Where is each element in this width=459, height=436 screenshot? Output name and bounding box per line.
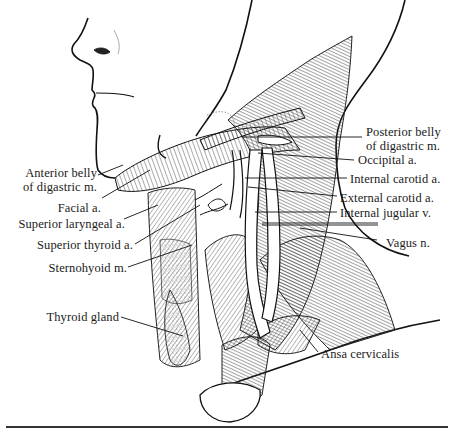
label-line: Anterior belly	[23, 166, 97, 180]
face-profile	[72, 18, 134, 178]
label-facial-a: Facial a.	[58, 201, 101, 215]
label-superior-thyroid-a: Superior thyroid a.	[37, 238, 133, 252]
arterial-branches	[195, 184, 228, 215]
label-occipital-a: Occipital a.	[358, 153, 417, 167]
label-posterior-belly-digastric: Posterior belly of digastric m.	[366, 125, 441, 153]
neck-anatomy-figure: Posterior belly of digastric m. Occipita…	[0, 0, 459, 436]
bottom-rule-divider	[6, 426, 448, 428]
label-vagus-n: Vagus n.	[386, 236, 430, 250]
label-superior-laryngeal-a: Superior laryngeal a.	[18, 217, 125, 231]
clavicle-region	[200, 383, 260, 422]
label-internal-jugular-v: Internal jugular v.	[340, 206, 431, 220]
label-internal-carotid-a: Internal carotid a.	[350, 172, 440, 186]
label-ansa-cervicalis: Ansa cervicalis	[321, 347, 399, 361]
label-sternohyoid-m: Sternohyoid m.	[49, 261, 127, 275]
label-thyroid-gland: Thyroid gland	[47, 310, 119, 324]
label-line: of digastric m.	[23, 180, 97, 194]
label-line: of digastric m.	[366, 139, 441, 153]
label-anterior-belly-digastric: Anterior belly of digastric m.	[23, 166, 97, 194]
larynx-sternohyoid	[148, 188, 200, 367]
label-line: Posterior belly	[366, 125, 441, 139]
label-external-carotid-a: External carotid a.	[340, 191, 434, 205]
